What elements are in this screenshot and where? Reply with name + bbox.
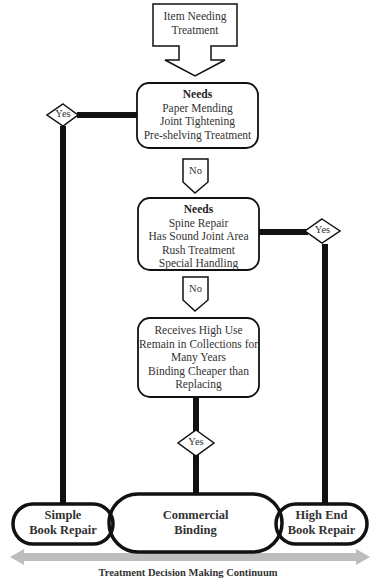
yes-label-right: Yes xyxy=(306,224,339,235)
outcome-simple-label: Simple Book Repair xyxy=(13,508,113,538)
start-line-2: Treatment xyxy=(153,24,237,38)
decision-2-line-1: Spine Repair xyxy=(138,217,259,231)
start-node-label: Item Needing Treatment xyxy=(153,10,237,37)
decision-2-line-4: Special Handling xyxy=(138,257,259,271)
outcome-commercial-line-1: Commercial xyxy=(109,508,282,523)
yes-label-left: Yes xyxy=(47,108,79,119)
outcome-high-end-line-2: Book Repair xyxy=(276,523,367,538)
decision-1-line-2: Joint Tightening xyxy=(137,115,258,129)
outcome-simple-line-1: Simple xyxy=(13,508,113,523)
decision-1-heading: Needs xyxy=(137,88,258,102)
no-label-2: No xyxy=(183,283,208,294)
decision-3-line-1: Receives High Use xyxy=(138,324,259,338)
continuum-caption: Treatment Decision Making Continuum xyxy=(0,567,376,578)
decision-3-line-2: Remain in Collections for xyxy=(138,338,259,352)
decision-3-label: Receives High Use Remain in Collections … xyxy=(138,324,259,392)
outcome-commercial-line-2: Binding xyxy=(109,523,282,538)
decision-2-line-3: Rush Treatment xyxy=(138,244,259,258)
decision-2-line-2: Has Sound Joint Area xyxy=(138,230,259,244)
outcome-simple-line-2: Book Repair xyxy=(13,523,113,538)
decision-2-label: Needs Spine Repair Has Sound Joint Area … xyxy=(138,203,259,271)
decision-1-line-1: Paper Mending xyxy=(137,102,258,116)
yes-label-center: Yes xyxy=(179,436,213,447)
decision-3-line-5: Replacing xyxy=(138,378,259,392)
decision-1-label: Needs Paper Mending Joint Tightening Pre… xyxy=(137,88,258,142)
decision-3-line-3: Many Years xyxy=(138,351,259,365)
decision-2-heading: Needs xyxy=(138,203,259,217)
outcome-commercial-label: Commercial Binding xyxy=(109,508,282,538)
outcome-high-end-label: High End Book Repair xyxy=(276,508,367,538)
outcome-high-end-line-1: High End xyxy=(276,508,367,523)
decision-1-line-3: Pre-shelving Treatment xyxy=(137,129,258,143)
start-line-1: Item Needing xyxy=(153,10,237,24)
decision-3-line-4: Binding Cheaper than xyxy=(138,365,259,379)
no-label-1: No xyxy=(183,165,208,176)
